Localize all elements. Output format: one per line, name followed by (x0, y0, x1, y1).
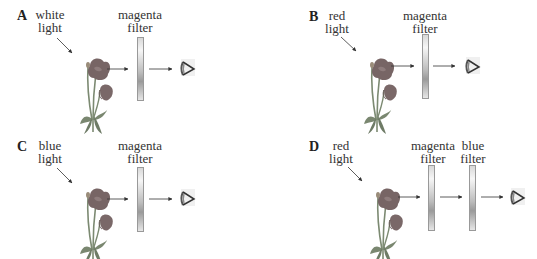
poppy-flower-icon (370, 189, 403, 259)
poppy-flower-icon (364, 59, 397, 134)
incident-light-arrow (341, 37, 356, 51)
panel-b-drawing (0, 0, 537, 130)
magenta-filter-bar (428, 165, 435, 231)
eye-icon (511, 188, 525, 205)
blue-filter-bar (469, 165, 476, 231)
eye-icon (466, 57, 480, 74)
incident-light-arrow (348, 167, 362, 181)
panel-d-drawing (0, 130, 537, 259)
magenta-filter-bar (422, 34, 429, 99)
